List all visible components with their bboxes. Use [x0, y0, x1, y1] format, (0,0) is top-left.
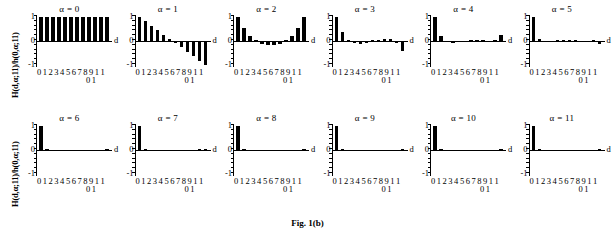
bar — [538, 39, 541, 41]
y-axis-tick-label: 0 — [25, 145, 35, 154]
x-axis-label: d — [114, 35, 118, 45]
bar — [574, 40, 577, 41]
y-axis-tick — [428, 49, 431, 50]
bar — [550, 41, 553, 42]
panel-title: α = 3 — [318, 4, 413, 14]
y-axis-tick — [526, 138, 529, 139]
x-axis-label: d — [607, 35, 611, 45]
y-axis-tick — [428, 138, 431, 139]
panel-title: α = 6 — [22, 113, 117, 123]
bar — [150, 26, 153, 41]
bar — [401, 149, 404, 150]
y-axis-tick-label: 1 — [321, 12, 331, 21]
y-axis-tick — [329, 134, 332, 135]
y-axis-tick-label: -1 — [124, 169, 134, 178]
y-axis-tick-label: 0 — [124, 36, 134, 45]
panel-title: α = 2 — [219, 4, 314, 14]
y-axis-tick — [428, 134, 431, 135]
bar — [451, 41, 454, 43]
bar — [487, 150, 490, 151]
bar-series — [432, 17, 504, 65]
bar — [81, 150, 84, 151]
bar — [377, 150, 380, 151]
bar — [347, 40, 350, 41]
bar — [144, 21, 147, 41]
bar — [138, 126, 141, 150]
bar — [39, 126, 42, 150]
bar — [278, 150, 281, 151]
y-axis-tick — [329, 53, 332, 54]
bar-series — [235, 17, 307, 65]
y-axis-tick-label: 0 — [25, 36, 35, 45]
bar — [395, 150, 398, 151]
bar — [487, 41, 490, 42]
bar — [278, 41, 281, 44]
bar — [156, 30, 159, 41]
chart-panel-alpha-9: α = 910-1d0 1 2 3 4 5 6 7 8 9 1 10 1 — [318, 113, 413, 211]
bar — [568, 150, 571, 151]
y-axis-tick — [34, 53, 37, 54]
bar — [254, 40, 257, 41]
bar-series — [334, 17, 406, 65]
bar-series — [531, 126, 603, 174]
bar — [359, 41, 362, 44]
bar — [45, 149, 48, 150]
chart-panel-alpha-1: α = 110-1d0 1 2 3 4 5 6 7 8 9 1 10 1 — [121, 4, 216, 104]
bar — [296, 28, 299, 41]
bar — [69, 150, 72, 151]
y-axis-tick — [231, 158, 234, 159]
bar — [389, 39, 392, 41]
chart-panel-alpha-3: α = 310-1d0 1 2 3 4 5 6 7 8 9 1 10 1 — [318, 4, 413, 104]
y-axis-tick-label: -1 — [25, 169, 35, 178]
bar — [236, 17, 239, 41]
bar — [451, 150, 454, 151]
bar-series — [137, 126, 209, 174]
x-axis-label: d — [311, 35, 315, 45]
x-axis-label: d — [607, 144, 611, 154]
y-axis-tick — [34, 138, 37, 139]
x-axis-label: d — [410, 144, 414, 154]
y-axis-tick-label: 1 — [222, 12, 232, 21]
chart-panel-alpha-10: α = 1010-1d0 1 2 3 4 5 6 7 8 9 1 10 1 — [416, 113, 511, 211]
y-axis-tick-label: 1 — [321, 121, 331, 130]
y-axis-tick — [526, 162, 529, 163]
bar — [433, 17, 436, 41]
y-axis-tick-label: -1 — [222, 169, 232, 178]
bar — [365, 150, 368, 151]
figure-caption: Fig. 1(b) — [0, 218, 615, 228]
bar — [433, 126, 436, 150]
bar — [556, 40, 559, 41]
bar — [335, 17, 338, 41]
x-axis-tick-labels-row2: 0 1 — [86, 184, 96, 194]
bar — [51, 150, 54, 151]
x-axis-tick-labels-row2: 0 1 — [185, 184, 195, 194]
bar — [469, 40, 472, 41]
x-axis-tick-labels: 0 1 2 3 4 5 6 7 8 9 1 10 1 — [529, 67, 609, 89]
x-axis-label: d — [114, 144, 118, 154]
bar — [401, 41, 404, 51]
bar — [45, 17, 48, 41]
bar — [242, 28, 245, 41]
y-axis-tick — [428, 29, 431, 30]
x-axis-tick-labels: 0 1 2 3 4 5 6 7 8 9 1 10 1 — [529, 176, 609, 198]
x-axis-tick-labels: 0 1 2 3 4 5 6 7 8 9 1 10 1 — [332, 176, 412, 198]
y-axis-tick-label: 0 — [419, 145, 429, 154]
chart-panel-alpha-2: α = 210-1d0 1 2 3 4 5 6 7 8 9 1 10 1 — [219, 4, 314, 104]
y-axis-tick — [329, 138, 332, 139]
bar — [192, 150, 195, 151]
y-axis-tick-label: 1 — [518, 121, 528, 130]
bar — [481, 40, 484, 41]
bar — [162, 150, 165, 151]
bar-series — [38, 17, 110, 65]
y-axis-tick — [231, 53, 234, 54]
x-axis-tick-labels: 0 1 2 3 4 5 6 7 8 9 1 10 1 — [135, 67, 215, 89]
y-axis-tick — [132, 25, 135, 26]
bar — [186, 41, 189, 52]
x-axis-tick-labels-row2: 0 1 — [86, 75, 96, 85]
bar — [57, 150, 60, 151]
y-axis-tick — [34, 25, 37, 26]
panel-title: α = 11 — [515, 113, 610, 123]
y-axis-tick — [231, 49, 234, 50]
bar — [335, 126, 338, 150]
bar — [544, 150, 547, 151]
